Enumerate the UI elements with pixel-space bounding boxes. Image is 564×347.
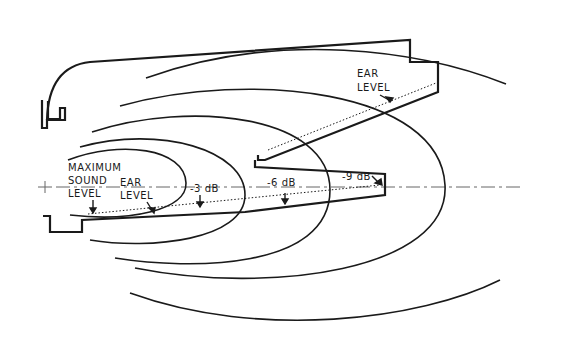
sound-pattern-diagram: MAXIMUM SOUND LEVEL EAR LEVEL EAR LEVEL … [0, 0, 564, 347]
label-minus-9db: -9 dB [342, 171, 371, 182]
label-maximum: MAXIMUM [68, 162, 121, 173]
label-ear-lower: EAR [120, 177, 142, 188]
label-ear-upper: EAR [357, 68, 379, 79]
label-sound: SOUND [68, 175, 107, 186]
label-level: LEVEL [68, 188, 101, 199]
label-ear-level-lower: LEVEL [120, 190, 153, 201]
label-minus-3db: -3 dB [190, 183, 219, 194]
label-ear-level-upper: LEVEL [357, 82, 390, 93]
upper-ear-level-line [268, 83, 436, 150]
label-minus-6db: -6 dB [267, 177, 296, 188]
